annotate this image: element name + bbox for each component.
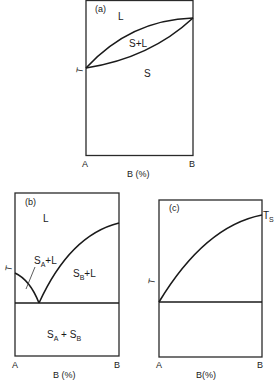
panel-c-y-axis-label: T	[146, 277, 157, 285]
panel-c-end-label: TS	[263, 210, 274, 223]
panel-b-label: (b)	[25, 197, 36, 207]
panel-c: (c) TS T A B B(%)	[146, 200, 274, 380]
panel-a-region-two-phase: S+L	[129, 38, 148, 49]
panel-b-region-liquid: L	[43, 213, 49, 224]
panel-a-y-axis-label: T	[74, 66, 85, 74]
panel-a: (a) L S+L S T A B B (%)	[74, 1, 195, 180]
panel-b-x-left-label: A	[12, 360, 18, 370]
panel-b-region-sa-sb: SA + SB	[47, 329, 81, 342]
panel-a-x-right-label: B	[189, 159, 195, 169]
panel-a-x-axis-label: B (%)	[127, 169, 150, 179]
panel-b-x-axis-label: B (%)	[53, 370, 76, 380]
phase-diagram-figure: (a) L S+L S T A B B (%) (b) L SA+L SB+L …	[0, 0, 277, 385]
panel-b-region-sa-l: SA+L	[34, 255, 57, 268]
panel-a-x-left-label: A	[82, 159, 88, 169]
panel-a-region-solid: S	[144, 68, 151, 79]
panel-a-frame	[86, 1, 193, 156]
panel-a-region-liquid: L	[118, 11, 124, 22]
panel-c-solubility-curve	[159, 215, 262, 302]
panel-c-x-axis-label: B(%)	[196, 370, 216, 380]
panel-c-x-right-label: B	[257, 360, 263, 370]
panel-b-region-sb-l: SB+L	[73, 268, 96, 281]
panel-c-label: (c)	[169, 203, 180, 213]
panel-b-x-right-label: B	[114, 360, 120, 370]
panel-b: (b) L SA+L SB+L SA + SB T A B B (%)	[3, 193, 120, 380]
panel-b-liquidus-a-curve	[15, 273, 39, 303]
panel-c-x-left-label: A	[156, 360, 162, 370]
panel-b-y-axis-label: T	[3, 264, 14, 272]
panel-a-label: (a)	[95, 4, 106, 14]
